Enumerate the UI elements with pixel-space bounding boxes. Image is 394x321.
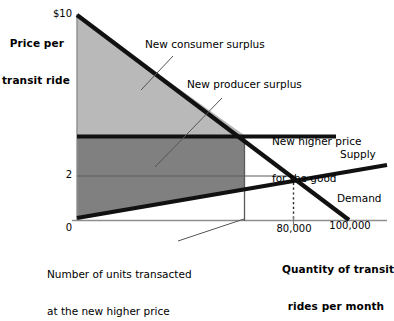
transacted-quantity-label: Number of units transacted at the new hi… xyxy=(47,243,192,321)
y-tick-10: $10 xyxy=(42,8,72,20)
new-higher-price-label-line2: for the good xyxy=(272,172,361,184)
transacted-quantity-label-line2: at the new higher price xyxy=(47,305,192,317)
transacted-quantity-leader xyxy=(178,219,244,241)
y-tick-0: 0 xyxy=(50,222,72,234)
y-axis-title-line2: transit ride xyxy=(2,74,64,86)
y-tick-2: 2 xyxy=(50,169,72,181)
x-axis-title-line2: rides per month xyxy=(282,300,390,312)
consumer-surplus-label: New consumer surplus xyxy=(145,38,265,50)
producer-surplus-region xyxy=(77,138,244,218)
x-axis-title: Quantity of transit rides per month xyxy=(282,238,390,321)
new-higher-price-label-line1: New higher price xyxy=(272,135,361,147)
x-tick-100000: 100,000 xyxy=(320,220,380,232)
transacted-quantity-label-line1: Number of units transacted xyxy=(47,268,192,280)
producer-surplus-label: New producer surplus xyxy=(187,78,302,90)
x-axis-title-line1: Quantity of transit xyxy=(282,263,390,275)
y-axis-title: Price per transit ride xyxy=(2,12,64,111)
demand-curve-label: Demand xyxy=(337,192,382,204)
supply-curve-label: Supply xyxy=(340,148,376,160)
x-tick-80000: 80,000 xyxy=(265,223,323,235)
y-axis-title-line1: Price per xyxy=(2,37,64,49)
